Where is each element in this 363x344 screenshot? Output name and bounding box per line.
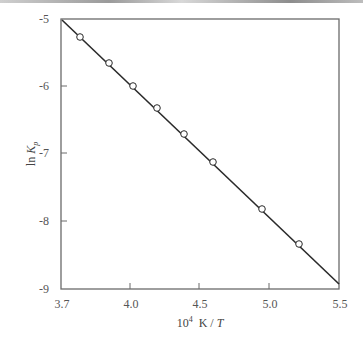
y-axis-ticks: -5-6-7-8-9 xyxy=(39,12,67,296)
data-point-marker xyxy=(210,159,217,166)
x-tick-label: 4.0 xyxy=(124,297,139,311)
y-tick-label: -7 xyxy=(39,146,49,160)
x-tick-label: 3.7 xyxy=(55,297,70,311)
y-tick-label: -9 xyxy=(39,282,49,296)
y-tick-label: -5 xyxy=(39,12,49,26)
y-axis-label: ln Kp xyxy=(24,142,40,166)
data-point-marker xyxy=(181,131,188,138)
data-point-marker xyxy=(106,60,113,67)
x-axis-ticks: 3.74.04.55.05.5 xyxy=(55,283,348,311)
chart-canvas: 3.74.04.55.05.5 -5-6-7-8-9 104 K / T ln … xyxy=(0,0,363,344)
y-tick-label: -8 xyxy=(39,214,49,228)
x-axis-label: 104 K / T xyxy=(177,315,225,330)
x-tick-label: 4.5 xyxy=(193,297,208,311)
x-tick-label: 5.0 xyxy=(263,297,278,311)
data-point-marker xyxy=(154,105,161,112)
data-point-marker xyxy=(130,83,137,90)
data-point-marker xyxy=(77,34,84,41)
x-tick-label: 5.5 xyxy=(333,297,348,311)
data-point-marker xyxy=(296,241,303,248)
data-point-marker xyxy=(259,206,266,213)
y-tick-label: -6 xyxy=(39,79,49,93)
